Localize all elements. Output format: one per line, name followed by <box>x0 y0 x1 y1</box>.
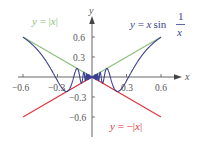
label-x-sin-inv-x: y = xsin <box>129 18 167 30</box>
x-tick-label: −0.6 <box>12 83 29 93</box>
y-tick-label: 0.3 <box>73 53 85 63</box>
label-x-sin-fraction-den: x <box>176 26 182 38</box>
label-x-sin-fraction-num: 1 <box>178 10 184 22</box>
x-axis-label: x <box>184 71 190 82</box>
function-plot: x y −0.6 −0.3 0.3 0.6 0.6 0.3 −0.3 −0.6 … <box>0 0 201 149</box>
y-axis-arrow-icon <box>89 16 95 24</box>
y-tick-label: −0.3 <box>69 93 86 103</box>
y-tick-labels: 0.6 0.3 −0.3 −0.6 <box>69 33 86 123</box>
x-axis-arrow-icon <box>174 74 182 80</box>
x-tick-label: 0.6 <box>155 83 167 93</box>
y-tick-label: 0.6 <box>73 33 85 43</box>
x-tick-labels: −0.6 −0.3 0.3 0.6 <box>12 83 167 93</box>
x-tick-label: 0.3 <box>121 83 133 93</box>
y-tick-label: −0.6 <box>69 113 86 123</box>
label-abs-x: y = |x| <box>31 15 58 27</box>
label-neg-abs-x: y = −|x| <box>109 120 142 132</box>
y-axis-label: y <box>88 5 94 16</box>
x-tick-label: −0.3 <box>48 83 65 93</box>
